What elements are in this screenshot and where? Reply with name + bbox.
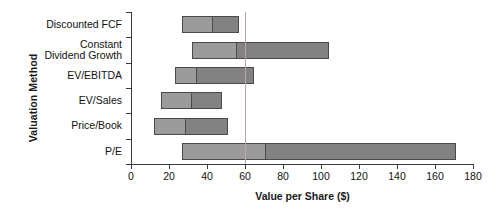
bars-layer <box>0 0 493 219</box>
range-bar <box>154 118 228 135</box>
x-axis-tick <box>359 164 360 169</box>
x-axis-tick-label: 160 <box>415 170 455 182</box>
x-axis-tick-label: 60 <box>225 170 265 182</box>
range-bar-high-segment <box>191 93 221 108</box>
x-axis-tick <box>397 164 398 169</box>
x-axis-tick <box>169 164 170 169</box>
x-axis-line <box>131 164 474 165</box>
range-bar <box>192 42 329 59</box>
reference-line <box>245 12 246 164</box>
range-bar-high-segment <box>236 43 327 58</box>
range-bar-high-segment <box>212 17 239 32</box>
valuation-range-chart: Valuation Method Discounted FCFConstantD… <box>0 0 493 219</box>
x-axis-tick-label: 100 <box>301 170 341 182</box>
x-axis-tick-label: 20 <box>149 170 189 182</box>
range-bar <box>175 67 255 84</box>
range-bar-low-segment <box>183 17 212 32</box>
x-axis-tick-label: 180 <box>453 170 493 182</box>
range-bar-low-segment <box>193 43 238 58</box>
range-bar <box>161 92 222 109</box>
range-bar-high-segment <box>265 144 455 159</box>
x-axis-tick-label: 40 <box>187 170 227 182</box>
range-bar <box>182 143 456 160</box>
range-bar-low-segment <box>162 93 191 108</box>
x-axis-tick <box>207 164 208 169</box>
x-axis-tick <box>435 164 436 169</box>
range-bar <box>182 16 239 33</box>
x-axis-tick-label: 120 <box>339 170 379 182</box>
range-bar-low-segment <box>183 144 266 159</box>
x-axis-tick <box>473 164 474 169</box>
x-axis-tick-label: 140 <box>377 170 417 182</box>
x-axis-title: Value per Share ($) <box>131 190 474 202</box>
range-bar-low-segment <box>155 119 186 134</box>
range-bar-low-segment <box>176 68 198 83</box>
x-axis-tick <box>283 164 284 169</box>
x-axis-tick-label: 0 <box>111 170 151 182</box>
x-axis-tick <box>321 164 322 169</box>
range-bar-high-segment <box>185 119 227 134</box>
x-axis-tick-label: 80 <box>263 170 303 182</box>
x-axis-tick <box>131 164 132 169</box>
x-axis-tick <box>245 164 246 169</box>
